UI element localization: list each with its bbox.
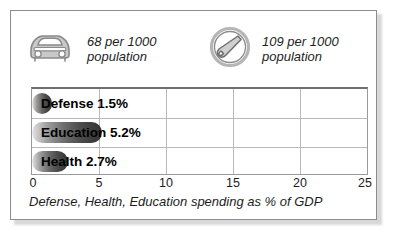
stat-telephones-label: 109 per 1000 population xyxy=(262,34,339,65)
infographic-panel: 68 per 1000 population 109 per 1000 popu… xyxy=(10,10,377,220)
bar-row-education: Education 5.2% xyxy=(32,118,367,147)
bar-label-defense: Defense 1.5% xyxy=(41,89,128,118)
spending-bar-chart: Defense 1.5% Education 5.2% Health 2.7% … xyxy=(21,87,369,211)
x-tick-5: 5 xyxy=(96,176,103,190)
x-tick-10: 10 xyxy=(159,176,173,190)
stats-row: 68 per 1000 population 109 per 1000 popu… xyxy=(11,23,376,75)
chart-caption: Defense, Health, Education spending as %… xyxy=(29,194,322,209)
stat-cars-label: 68 per 1000 population xyxy=(87,34,156,65)
bar-label-health: Health 2.7% xyxy=(41,147,117,175)
x-tick-25: 25 xyxy=(358,176,372,190)
bar-label-education: Education 5.2% xyxy=(41,118,141,147)
bar-row-defense: Defense 1.5% xyxy=(32,89,367,118)
x-tick-0: 0 xyxy=(30,176,37,190)
stat-cars: 68 per 1000 population xyxy=(11,23,206,75)
x-tick-15: 15 xyxy=(226,176,240,190)
section-header: CONSUMPTION AND SPENDING xyxy=(11,0,206,2)
stat-telephones: 109 per 1000 population xyxy=(206,23,376,75)
telephone-handset-icon xyxy=(208,25,252,73)
car-icon xyxy=(25,30,75,68)
x-axis: 0 5 10 15 20 25 xyxy=(31,176,368,194)
chart-plot-area: Defense 1.5% Education 5.2% Health 2.7% xyxy=(31,87,368,175)
x-tick-20: 20 xyxy=(293,176,307,190)
bar-row-health: Health 2.7% xyxy=(32,147,367,175)
